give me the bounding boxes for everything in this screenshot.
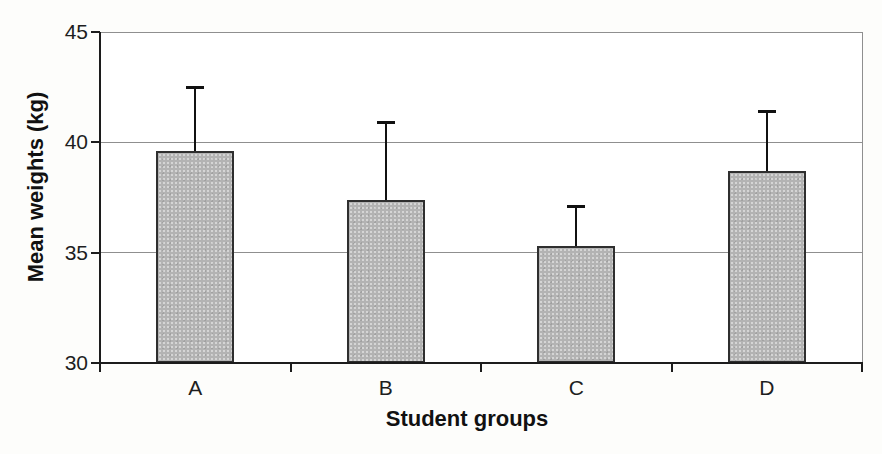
x-axis-title: Student groups	[386, 406, 549, 432]
x-category-label-D: D	[737, 377, 797, 399]
y-tick-label-35: 35	[36, 242, 88, 264]
error-bar-cap-B	[377, 121, 395, 124]
error-bar-B	[385, 122, 387, 199]
x-tick-1	[290, 363, 292, 372]
error-bar-cap-D	[758, 110, 776, 113]
plot-border-right	[862, 32, 863, 363]
error-bar-D	[766, 111, 768, 171]
x-tick-0	[99, 363, 101, 372]
error-bar-A	[194, 87, 196, 151]
y-tick-35	[91, 252, 100, 254]
y-tick-label-30: 30	[36, 352, 88, 374]
y-tick-label-40: 40	[36, 131, 88, 153]
gridline-45	[100, 32, 862, 33]
bar-D	[728, 171, 806, 363]
x-tick-3	[671, 363, 673, 372]
y-axis-line	[99, 32, 101, 365]
x-category-label-A: A	[165, 377, 225, 399]
gridline-40	[100, 142, 862, 143]
bar-C	[537, 246, 615, 363]
error-bar-cap-C	[567, 205, 585, 208]
x-category-label-B: B	[356, 377, 416, 399]
error-bar-cap-A	[186, 86, 204, 89]
x-category-label-C: C	[546, 377, 606, 399]
y-tick-45	[91, 31, 100, 33]
bar-B	[347, 200, 425, 363]
x-tick-4	[861, 363, 863, 372]
x-tick-2	[480, 363, 482, 372]
y-tick-label-45: 45	[36, 21, 88, 43]
y-tick-40	[91, 141, 100, 143]
error-bar-C	[575, 206, 577, 246]
bar-A	[156, 151, 234, 363]
bar-chart-figure: Mean weights (kg) Student groups 3035404…	[0, 0, 882, 454]
